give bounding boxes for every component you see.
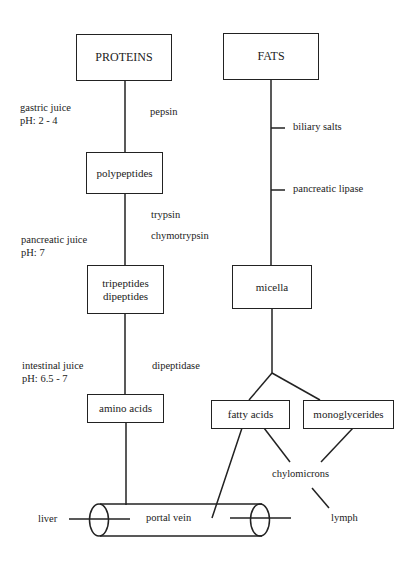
proteins-box: PROTEINS [76,34,172,81]
liver-label: liver [38,513,57,526]
pancreatic-juice-label: pancreatic juice pH: 7 [21,234,87,259]
intestinal-juice-label: intestinal juice pH: 6.5 - 7 [22,360,84,385]
fats-label: FATS [257,50,284,63]
micella-box: micella [232,265,312,309]
agent-biliary-salts: biliary salts [293,121,342,134]
proteins-label: PROTEINS [95,51,152,64]
gastric-juice-label: gastric juice pH: 2 - 4 [20,102,71,127]
tripeptides-dipeptides-box: tripeptides dipeptides [87,265,164,314]
amino-acids-box: amino acids [87,394,164,423]
enzyme-trypsin: trypsin [151,209,180,222]
portal-vein-label: portal vein [146,512,191,525]
fatty-acids-box: fatty acids [211,400,290,429]
chylomicrons-label: chylomicrons [272,468,329,481]
enzyme-pepsin: pepsin [150,106,177,119]
enzyme-dipeptidase: dipeptidase [152,360,200,373]
polypeptides-box: polypeptides [86,152,163,194]
lymph-label: lymph [331,512,358,525]
connector-lines [0,0,414,563]
agent-pancreatic-lipase: pancreatic lipase [293,183,363,196]
fats-box: FATS [223,33,319,80]
monoglycerides-box: monoglycerides [303,400,394,429]
enzyme-chymotrypsin: chymotrypsin [151,230,209,243]
